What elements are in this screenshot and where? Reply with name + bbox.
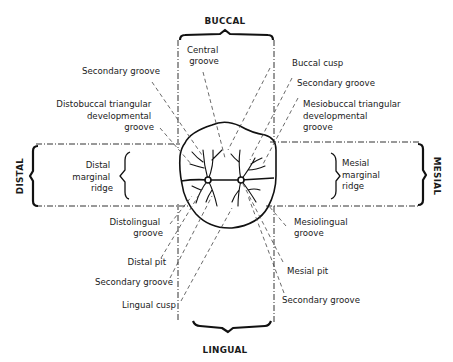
- label-mesial-marginal-ridge: Mesial marginal ridge: [342, 158, 383, 191]
- label-mesiolingual-groove: Mesiolingual groove: [294, 217, 350, 238]
- distal-pit: [205, 177, 211, 183]
- label-secondary-groove-bottom-right: Secondary groove: [282, 295, 360, 305]
- central-ridge-line: [181, 178, 274, 181]
- lingual-label: LINGUAL: [203, 345, 248, 355]
- fissure-pattern: [190, 150, 265, 206]
- distal-ridge-brace: [120, 152, 130, 199]
- label-buccal-cusp: Buccal cusp: [292, 58, 343, 68]
- label-central-groove: Central groove: [187, 45, 221, 66]
- label-distal-marginal-ridge: Distal marginal ridge: [72, 160, 113, 193]
- label-distobuccal-triangular-groove: Distobuccal triangular developmental gro…: [56, 99, 154, 132]
- label-secondary-groove-top-left: Secondary groove: [82, 66, 160, 76]
- mesial-bracket: [418, 144, 426, 205]
- tooth-occlusal-diagram: BUCCAL LINGUAL DISTAL MESIAL: [0, 0, 453, 362]
- mesial-pit: [238, 177, 244, 183]
- buccal-label: BUCCAL: [205, 16, 246, 26]
- mesial-label: MESIAL: [432, 157, 442, 196]
- tooth: [180, 122, 276, 228]
- label-mesiobuccal-triangular-groove: Mesiobuccal triangular developmental gro…: [303, 99, 403, 132]
- label-secondary-groove-bottom-left: Secondary groove: [95, 277, 173, 287]
- mesial-ridge-brace: [331, 153, 340, 199]
- label-mesial-pit: Mesial pit: [287, 266, 329, 276]
- distal-bracket: [30, 146, 38, 206]
- label-distal-pit: Distal pit: [128, 257, 167, 267]
- lingual-bracket: [193, 321, 271, 332]
- tooth-outline: [180, 122, 276, 228]
- distal-label: DISTAL: [15, 158, 25, 195]
- label-lingual-cusp: Lingual cusp: [122, 300, 176, 310]
- label-secondary-groove-top-right: Secondary groove: [297, 78, 375, 88]
- label-distolingual-groove: Distolingual groove: [109, 217, 163, 238]
- buccal-bracket: [180, 30, 273, 40]
